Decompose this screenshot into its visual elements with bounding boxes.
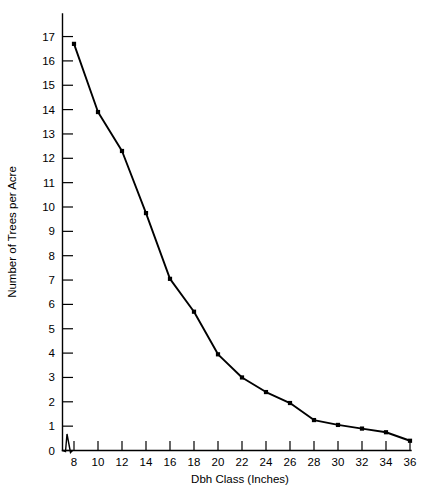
data-point — [336, 423, 340, 427]
y-axis-tick-marks — [63, 37, 74, 451]
x-axis: 81012141618202224262830323436 — [63, 434, 417, 468]
y-tick-label: 11 — [43, 177, 55, 189]
y-tick-label: 13 — [42, 128, 55, 140]
x-tick-label: 22 — [236, 456, 249, 468]
x-tick-label: 16 — [164, 456, 177, 468]
y-tick-label: 5 — [49, 323, 55, 335]
y-tick-label: 0 — [49, 445, 55, 457]
x-tick-label: 14 — [140, 456, 153, 468]
x-tick-label: 28 — [308, 456, 321, 468]
x-tick-label: 36 — [404, 456, 417, 468]
data-point — [96, 110, 100, 114]
x-tick-label: 32 — [356, 456, 369, 468]
series-markers — [72, 42, 412, 443]
x-tick-label: 10 — [92, 456, 105, 468]
x-tick-label: 24 — [260, 456, 273, 468]
data-point — [240, 375, 244, 379]
y-axis-tick-labels: 01234567891011121314151617 — [42, 31, 55, 457]
data-point — [144, 211, 148, 215]
y-tick-label: 2 — [49, 396, 55, 408]
y-tick-label: 8 — [49, 250, 55, 262]
x-tick-label: 18 — [188, 456, 201, 468]
chart-container: 01234567891011121314151617 8101214161820… — [0, 0, 426, 498]
data-point — [168, 277, 172, 281]
data-series — [72, 42, 412, 443]
data-point — [216, 352, 220, 356]
x-tick-label: 12 — [116, 456, 129, 468]
data-point — [192, 310, 196, 314]
y-tick-label: 14 — [42, 104, 55, 116]
data-point — [408, 439, 412, 443]
x-tick-label: 34 — [380, 456, 393, 468]
y-axis: 01234567891011121314151617 — [42, 14, 73, 457]
x-axis-tick-labels: 81012141618202224262830323436 — [71, 456, 417, 468]
data-point — [384, 430, 388, 434]
y-tick-label: 7 — [49, 274, 55, 286]
x-tick-label: 26 — [284, 456, 297, 468]
x-tick-label: 8 — [71, 456, 77, 468]
series-line-trees-per-acre — [74, 44, 410, 441]
x-axis-title: Dbh Class (Inches) — [191, 473, 289, 485]
y-tick-label: 6 — [49, 298, 55, 310]
y-tick-label: 17 — [42, 31, 55, 43]
y-tick-label: 10 — [42, 201, 55, 213]
line-chart: 01234567891011121314151617 8101214161820… — [0, 0, 426, 498]
data-point — [264, 390, 268, 394]
y-tick-label: 16 — [42, 55, 55, 67]
y-tick-label: 9 — [49, 225, 55, 237]
y-axis-title: Number of Trees per Acre — [6, 166, 18, 298]
y-tick-label: 4 — [49, 347, 56, 359]
axis-break-icon — [63, 434, 73, 453]
data-point — [120, 149, 124, 153]
data-point — [72, 42, 76, 46]
data-point — [360, 426, 364, 430]
y-tick-label: 3 — [49, 371, 55, 383]
x-axis-tick-marks — [74, 441, 410, 451]
y-tick-label: 1 — [49, 420, 55, 432]
y-tick-label: 12 — [42, 152, 55, 164]
data-point — [312, 418, 316, 422]
data-point — [288, 401, 292, 405]
x-tick-label: 30 — [332, 456, 345, 468]
x-tick-label: 20 — [212, 456, 225, 468]
y-tick-label: 15 — [42, 79, 55, 91]
